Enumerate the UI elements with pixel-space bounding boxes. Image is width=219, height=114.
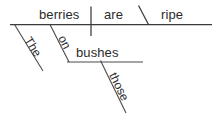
- word-subject-complement: ripe: [161, 7, 183, 22]
- word-article: The: [21, 34, 44, 59]
- word-determiner: those: [106, 70, 132, 103]
- sentence-diagram-drawing: berries are ripe The on bushes those: [0, 0, 219, 114]
- sentence-diagram-canvas: berries are ripe The on bushes those: [0, 0, 219, 114]
- word-prep-object: bushes: [76, 45, 119, 60]
- word-verb: are: [104, 7, 123, 22]
- predicate-adjective-slant: [139, 6, 149, 25]
- word-subject: berries: [39, 7, 80, 22]
- word-preposition: on: [55, 33, 74, 51]
